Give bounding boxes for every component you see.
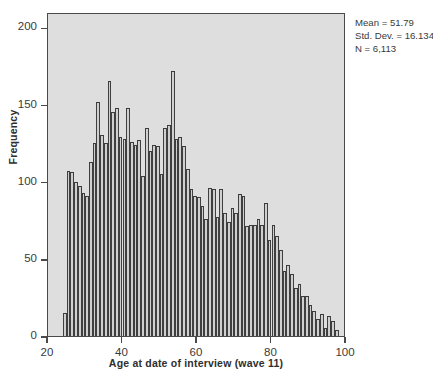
histogram-bar [335, 330, 339, 336]
x-axis-title: Age at date of interview (wave 11) [47, 357, 345, 369]
y-axis-title: Frequency [7, 77, 19, 197]
histogram-figure: 05010015020020406080100 Frequency Age at… [0, 0, 433, 375]
x-axis-tick [270, 337, 271, 343]
y-axis-tick-label: 200 [1, 20, 37, 32]
n-label: N = 6,113 [355, 42, 433, 55]
x-axis-tick [344, 337, 345, 343]
y-axis-tick [41, 182, 47, 183]
y-axis-tick [41, 28, 47, 29]
y-axis-tick-label: 50 [1, 252, 37, 264]
histogram-bars [48, 14, 344, 336]
x-axis-tick [195, 337, 196, 343]
y-axis-tick-label: 0 [1, 329, 37, 341]
stddev-label: Std. Dev. = 16.134 [355, 29, 433, 42]
y-axis-tick [41, 105, 47, 106]
y-axis-tick [41, 259, 47, 260]
mean-label: Mean = 51.79 [355, 16, 433, 29]
x-axis-tick [46, 337, 47, 343]
statistics-annotation: Mean = 51.79 Std. Dev. = 16.134 N = 6,11… [355, 16, 433, 56]
x-axis-tick [121, 337, 122, 343]
plot-area [47, 13, 345, 337]
